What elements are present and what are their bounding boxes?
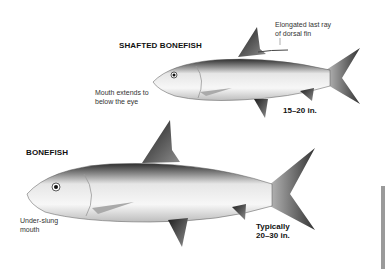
dorsal-fin <box>238 27 266 57</box>
annotation-line: Under-slung <box>20 216 58 225</box>
dorsal-ray-annotation: Elongated last ray of dorsal fin <box>275 20 331 38</box>
mouth-annotation: Mouth extends to below the eye <box>95 88 149 106</box>
fish-body <box>27 163 272 222</box>
dorsal-fin <box>142 120 180 163</box>
shafted-bonefish-title: SHAFTED BONEFISH <box>119 41 202 50</box>
pupil <box>54 185 58 189</box>
fish-body <box>153 59 330 100</box>
bonefish-title: BONEFISH <box>26 148 68 157</box>
shafted-bonefish-size: 15–20 in. <box>283 106 317 115</box>
pelvic-fin <box>254 99 268 118</box>
elongated-ray <box>258 50 288 52</box>
pelvic-fin <box>168 218 188 247</box>
tail-fin <box>326 48 360 104</box>
pupil <box>173 74 176 77</box>
annotation-line: of dorsal fin <box>275 29 331 38</box>
underslung-annotation: Under-slung mouth <box>20 216 58 234</box>
annotation-line: Elongated last ray <box>275 20 331 29</box>
size-line: 20–30 in. <box>256 231 290 240</box>
annotation-line: mouth <box>20 225 58 234</box>
bonefish-size: Typically 20–30 in. <box>256 222 290 240</box>
size-line: Typically <box>256 222 290 231</box>
tail-fin <box>268 148 315 230</box>
annotation-line: below the eye <box>95 97 149 106</box>
page-edge-bar <box>381 186 385 269</box>
annotation-line: Mouth extends to <box>95 88 149 97</box>
